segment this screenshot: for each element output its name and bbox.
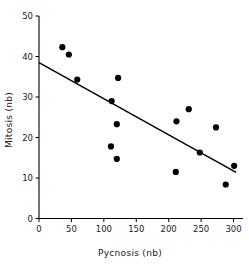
data-point bbox=[114, 156, 120, 162]
x-tick-label: 150 bbox=[128, 224, 144, 234]
x-tick-label: 50 bbox=[66, 224, 77, 234]
y-tick-label: 40 bbox=[22, 52, 33, 62]
data-point bbox=[197, 149, 203, 155]
data-point bbox=[109, 98, 115, 104]
x-tick-label: 200 bbox=[161, 224, 177, 234]
regression-line bbox=[39, 63, 236, 173]
data-point bbox=[115, 75, 121, 81]
data-point bbox=[114, 121, 120, 127]
x-axis: 050100150200250300 bbox=[36, 219, 243, 234]
plot-canvas: 01020304050 050100150200250300 Pycnosis … bbox=[0, 0, 249, 267]
data-point bbox=[173, 169, 179, 175]
x-tick-label: 250 bbox=[193, 224, 209, 234]
y-tick-label: 50 bbox=[22, 11, 33, 21]
data-point bbox=[186, 106, 192, 112]
scatter-chart: 01020304050 050100150200250300 Pycnosis … bbox=[0, 0, 249, 267]
data-point bbox=[231, 163, 237, 169]
y-tick-label: 20 bbox=[22, 133, 33, 143]
data-point bbox=[74, 76, 80, 82]
y-tick-label: 10 bbox=[22, 173, 33, 183]
data-point bbox=[223, 181, 229, 187]
data-point bbox=[59, 44, 65, 50]
y-tick-label: 30 bbox=[22, 92, 33, 102]
y-axis: 01020304050 bbox=[22, 11, 39, 224]
data-points bbox=[59, 44, 237, 187]
data-point bbox=[66, 51, 72, 57]
x-axis-title: Pycnosis (nb) bbox=[98, 248, 162, 258]
data-point bbox=[173, 118, 179, 124]
x-tick-label: 300 bbox=[225, 224, 241, 234]
y-tick-label: 0 bbox=[28, 214, 33, 224]
x-tick-label: 0 bbox=[36, 224, 41, 234]
y-axis-title: Mitosis (nb) bbox=[4, 92, 14, 148]
regression-line-segment bbox=[39, 63, 236, 173]
data-point bbox=[213, 124, 219, 130]
data-point bbox=[108, 143, 114, 149]
x-tick-label: 100 bbox=[96, 224, 112, 234]
